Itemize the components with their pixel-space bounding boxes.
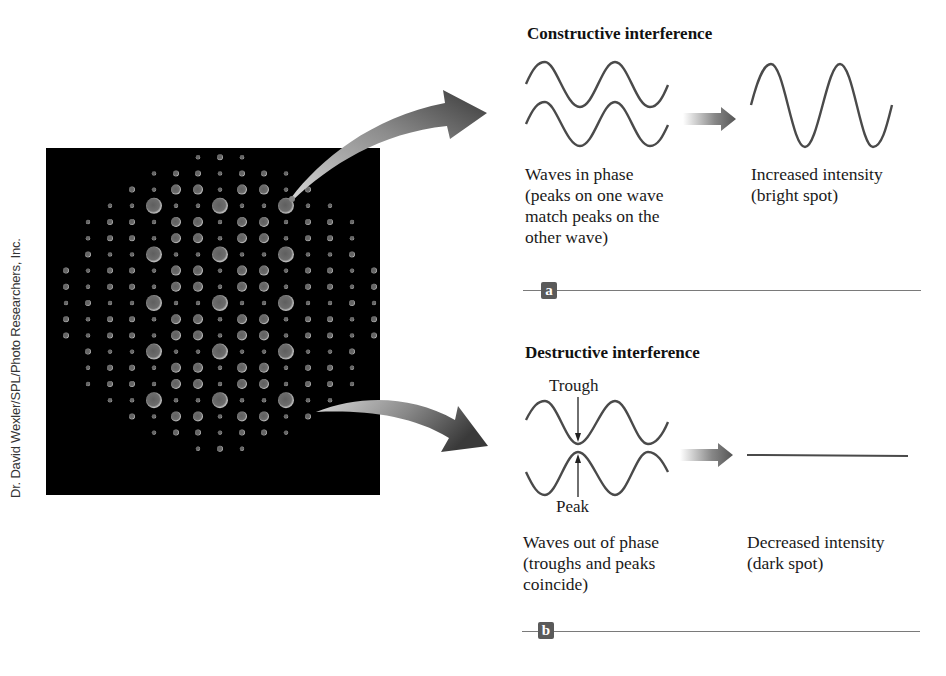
constructive-input-caption: Waves in phase (peaks on one wave match … — [525, 164, 664, 248]
diffraction-spots — [46, 148, 380, 495]
input-wave-1 — [526, 62, 668, 107]
constructive-title: Constructive interference — [527, 24, 712, 44]
trough-arrow-icon — [575, 433, 581, 442]
panel-a-badge: a — [541, 282, 557, 299]
destructive-input-caption: Waves out of phase (troughs and peaks co… — [523, 532, 659, 595]
result-wave-amplified — [751, 64, 892, 147]
peak-arrow-icon — [575, 454, 581, 463]
result-flat-line — [747, 455, 908, 456]
input-wave-1 — [526, 401, 668, 444]
photo-credit: Dr. David Wexler/SPL/Photo Researchers, … — [8, 148, 23, 498]
result-arrow-icon — [680, 443, 733, 467]
constructive-result-caption: Increased intensity (bright spot) — [751, 164, 883, 206]
destructive-title: Destructive interference — [525, 343, 700, 363]
panel-a-rule — [523, 290, 921, 291]
panel-b-badge: b — [538, 622, 554, 639]
destructive-result-caption: Decreased intensity (dark spot) — [747, 532, 885, 574]
diffraction-pattern-photo — [46, 148, 380, 495]
input-wave-2 — [526, 102, 668, 146]
panel-b-rule — [522, 631, 920, 632]
trough-label: Trough — [549, 376, 598, 396]
peak-label: Peak — [556, 497, 589, 517]
result-arrow-icon — [683, 107, 736, 131]
input-wave-2-inverted — [526, 452, 668, 495]
